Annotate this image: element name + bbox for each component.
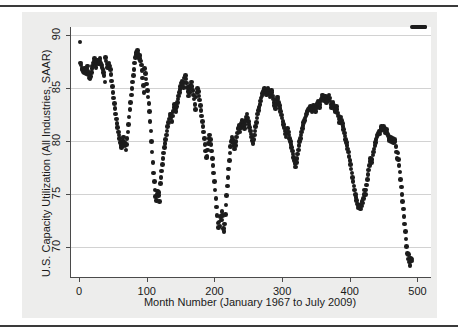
data-point [296,148,301,153]
data-point [295,152,300,157]
data-point [209,149,214,154]
data-point [149,129,154,134]
data-point [228,151,233,156]
x-axis-title: Month Number (January 1967 to July 2009) [70,296,430,308]
y-tick-label-85: 85 [36,81,62,93]
data-point [161,151,166,156]
data-point [254,120,259,125]
data-point [205,154,210,159]
data-point [397,163,402,168]
data-point [159,169,164,174]
data-point [208,137,213,142]
data-point [398,177,403,182]
data-point [201,130,206,135]
data-point [129,93,134,98]
data-point [370,157,375,162]
x-tick-400 [350,277,351,282]
data-point [147,109,152,114]
data-point [234,135,239,140]
data-point [174,109,179,114]
data-point [202,136,207,141]
data-point [360,201,365,206]
y-tick-label-90: 90 [36,28,62,40]
data-point [165,124,170,129]
data-point [212,179,217,184]
data-point [78,40,83,45]
data-point [110,84,115,89]
data-point [193,107,198,112]
data-point [361,196,366,201]
data-point [126,130,131,135]
data-point [102,73,107,78]
data-point [130,80,135,85]
data-point [200,119,205,124]
data-point [85,64,90,69]
data-point [364,188,369,193]
data-point [89,70,94,75]
data-point [394,144,399,149]
data-point [251,137,256,142]
data-point [124,142,129,147]
data-point [128,100,133,105]
data-point [197,98,202,103]
data-point [132,67,137,72]
data-point [400,192,405,197]
data-point [157,190,162,195]
data-point [402,222,407,227]
plot-area: 7075808590 0100200300400500 [70,27,431,278]
data-point [199,114,204,119]
data-point [366,172,371,177]
data-point [151,171,156,176]
gridline-y-75 [71,194,431,195]
data-point [163,141,168,146]
data-point [224,193,229,198]
data-point [193,102,198,107]
x-tick-100 [147,277,148,282]
data-point [152,179,157,184]
data-point [162,145,167,150]
bottom-divider-rule [0,325,458,327]
data-point [364,183,369,188]
data-point [399,185,404,190]
data-point [111,96,116,101]
data-point [144,77,149,82]
data-point [199,108,204,113]
data-point [211,171,216,176]
data-point [145,88,150,93]
data-point [113,112,118,117]
data-point [131,73,136,78]
data-point [150,150,155,155]
data-point [402,214,407,219]
data-point [222,229,227,234]
y-tick-label-70: 70 [36,240,62,252]
data-point [144,82,149,87]
data-point [396,157,401,162]
data-point [223,212,228,217]
data-point [103,80,108,85]
data-point [127,115,132,120]
data-point [159,175,164,180]
data-point [148,119,153,124]
data-point [363,192,368,197]
data-point [403,229,408,234]
y-tick-90 [66,35,71,36]
gridline-y-70 [71,247,431,248]
data-point [393,139,398,144]
data-point [210,156,215,161]
data-point [125,136,130,141]
data-point [408,263,413,268]
data-point [366,168,371,173]
data-point [126,122,131,127]
data-point [295,156,300,161]
data-point [396,151,401,156]
data-point [214,205,219,210]
data-point [251,141,256,146]
data-point [170,114,175,119]
data-point [161,156,166,161]
data-point [209,142,214,147]
data-point [233,143,238,148]
data-point [142,66,147,71]
data-point [146,95,151,100]
data-point [222,222,227,227]
data-point [214,196,219,201]
